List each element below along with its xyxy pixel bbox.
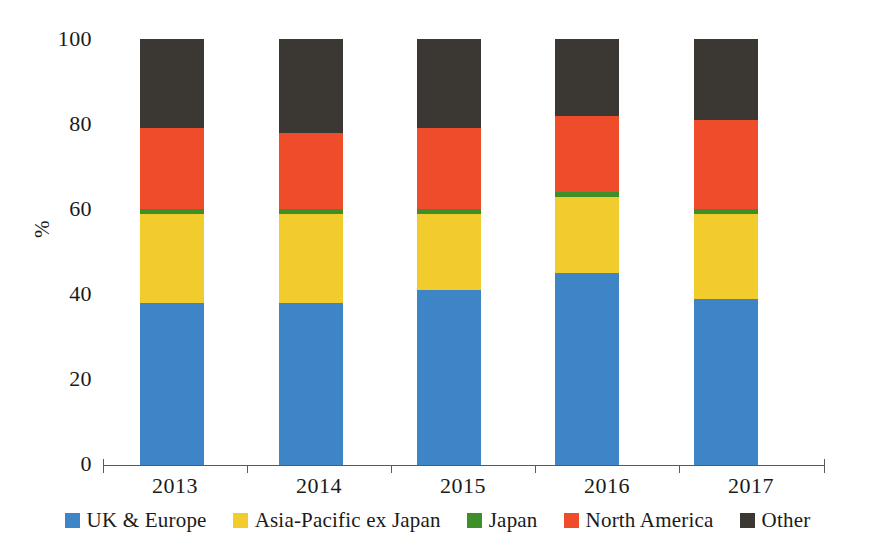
legend-item-1[interactable]: Asia-Pacific ex Japan (233, 509, 441, 531)
x-tick-mark (824, 466, 825, 473)
y-tick-60: 60 (32, 198, 92, 220)
legend-item-0[interactable]: UK & Europe (65, 509, 207, 531)
legend-swatch-icon (65, 513, 80, 528)
x-tick-mark (679, 466, 680, 473)
bar-segment (279, 214, 343, 303)
legend-swatch-icon (233, 513, 248, 528)
bar-segment (555, 116, 619, 193)
chart-legend: UK & EuropeAsia-Pacific ex JapanJapanNor… (0, 509, 875, 531)
y-axis-tick-labels: 100 80 60 40 20 0 (26, 0, 92, 555)
bar-stack (417, 39, 481, 465)
bar-segment (140, 214, 204, 303)
bar-group-2015 (417, 39, 481, 465)
bar-segment (140, 128, 204, 209)
bar-segment (140, 39, 204, 128)
bar-segment (555, 39, 619, 116)
bar-segment (279, 39, 343, 133)
bar-segment (417, 214, 481, 291)
y-tick-80: 80 (32, 113, 92, 135)
bar-group-2014 (279, 39, 343, 465)
stacked-bar-chart: % 100 80 60 40 20 0 2013 2014 2015 2016 … (0, 0, 875, 555)
plot-area (103, 39, 795, 465)
y-tick-0: 0 (32, 453, 92, 475)
x-tick-mark (535, 466, 536, 473)
legend-label: North America (586, 509, 714, 531)
legend-swatch-icon (740, 513, 755, 528)
bar-group-2016 (555, 39, 619, 465)
legend-label: Japan (489, 509, 538, 531)
y-tick-40: 40 (32, 283, 92, 305)
bar-segment (279, 133, 343, 210)
bar-stack (555, 39, 619, 465)
bar-segment (417, 128, 481, 209)
legend-item-4[interactable]: Other (740, 509, 811, 531)
bar-segment (555, 197, 619, 274)
x-axis-right-cap (824, 459, 825, 466)
bar-stack (694, 39, 758, 465)
x-tick-label-2016: 2016 (547, 474, 667, 498)
bar-segment (694, 120, 758, 209)
bar-segment (417, 39, 481, 128)
bar-segment (140, 303, 204, 465)
legend-item-2[interactable]: Japan (467, 509, 538, 531)
x-tick-label-2015: 2015 (403, 474, 523, 498)
legend-label: UK & Europe (87, 509, 207, 531)
x-tick-label-2013: 2013 (115, 474, 235, 498)
legend-label: Asia-Pacific ex Japan (255, 509, 441, 531)
legend-label: Other (762, 509, 811, 531)
bar-group-2013 (140, 39, 204, 465)
y-tick-20: 20 (32, 368, 92, 390)
x-tick-mark (247, 466, 248, 473)
bar-segment (279, 303, 343, 465)
legend-item-3[interactable]: North America (564, 509, 714, 531)
x-axis-line (103, 465, 825, 466)
x-tick-mark (391, 466, 392, 473)
bar-segment (694, 39, 758, 120)
bar-stack (279, 39, 343, 465)
x-tick-mark (103, 466, 104, 473)
bar-segment (555, 273, 619, 465)
y-tick-100: 100 (32, 28, 92, 50)
bar-segment (694, 214, 758, 299)
legend-swatch-icon (467, 513, 482, 528)
legend-swatch-icon (564, 513, 579, 528)
x-axis-left-cap (103, 459, 104, 466)
bar-segment (417, 290, 481, 465)
x-tick-label-2017: 2017 (691, 474, 811, 498)
bar-stack (140, 39, 204, 465)
bar-group-2017 (694, 39, 758, 465)
x-tick-label-2014: 2014 (259, 474, 379, 498)
bar-segment (694, 299, 758, 465)
